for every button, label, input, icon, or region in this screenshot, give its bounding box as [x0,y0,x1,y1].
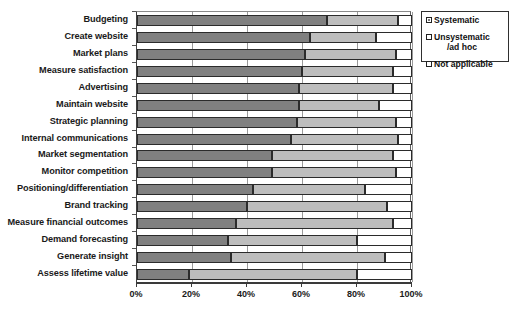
y-axis-label: Brand tracking [65,199,128,212]
bar-row [137,49,410,60]
legend-swatch-not-applicable [426,61,432,67]
y-axis-tick [132,214,136,215]
y-axis-tick [132,45,136,46]
legend-item-unsystematic: Unsystematic /ad hoc [426,32,506,52]
bar-segment [393,83,412,94]
bar-segment [387,201,412,212]
bar-row [137,150,410,161]
y-axis-label: Budgeting [83,13,128,26]
y-axis-tick [132,11,136,12]
stacked-bar-chart: BudgetingCreate websiteMarket plansMeasu… [0,0,511,313]
y-axis-label: Internal communications [22,132,128,145]
bar-row [137,184,410,195]
bar-row [137,117,410,128]
bar-segment [398,134,412,145]
bar-segment [376,32,412,43]
bar-segment [357,235,412,246]
bar-segment [253,184,366,195]
bar-segment [137,201,247,212]
x-axis-tick [356,282,357,287]
x-axis-tick-label: 60% [292,289,310,299]
x-axis-tick [136,282,137,287]
bar-row [137,100,410,111]
bar-segment [137,218,236,229]
bar-segment [231,252,385,263]
bar-segment [396,49,413,60]
y-axis-label: Create website [65,30,128,43]
y-axis-tick [132,28,136,29]
bar-segment [189,269,357,280]
bar-segment [393,66,412,77]
bar-segment [365,184,412,195]
bar-segment [137,66,302,77]
bar-segment [310,32,376,43]
bar-segment [396,117,413,128]
x-axis-tick-label: 80% [347,289,365,299]
bar-segment [137,269,189,280]
y-axis-label: Assess lifetime value [37,267,128,280]
bar-segment [385,252,413,263]
y-axis-label: Monitor competition [42,165,128,178]
bar-segment [137,235,228,246]
chart-legend: Systematic Unsystematic /ad hoc Not appl… [421,11,509,62]
bar-segment [137,49,305,60]
y-axis-label: Market plans [73,47,128,60]
bar-segment [357,269,412,280]
legend-label-unsystematic-line1: Unsystematic [434,32,490,42]
bar-segment [299,100,379,111]
y-axis-tick [132,163,136,164]
y-axis-label: Advertising [79,81,128,94]
y-axis-tick [132,96,136,97]
bar-segment [291,134,398,145]
y-axis-label: Measure financial outcomes [8,216,128,229]
legend-swatch-unsystematic [426,34,432,40]
bar-segment [299,83,393,94]
bar-segment [137,83,299,94]
y-axis-tick [132,113,136,114]
bar-segment [137,252,231,263]
bar-segment [305,49,396,60]
gridline-100 [412,12,413,282]
bar-segment [137,167,272,178]
x-axis-tick [246,282,247,287]
x-axis-tick-label: 40% [237,289,255,299]
legend-item-systematic: Systematic [426,15,506,25]
x-axis-tick [191,282,192,287]
y-axis-tick [132,265,136,266]
legend-label-not-applicable: Not applicable [434,59,493,69]
bar-segment [137,150,272,161]
y-axis-tick [132,62,136,63]
y-axis-label: Positioning/differentiation [17,182,128,195]
bar-row [137,235,410,246]
y-axis-tick [132,130,136,131]
bar-row [137,269,410,280]
bar-segment [137,117,297,128]
y-axis-label: Generate insight [57,250,128,263]
bar-row [137,15,410,26]
bar-segment [302,66,393,77]
y-axis-label: Measure satisfaction [39,64,128,77]
bar-segment [137,100,299,111]
bar-segment [327,15,399,26]
y-axis-label: Maintain website [56,98,128,111]
y-axis-label: Market segmentation [38,148,128,161]
x-axis-line [136,282,411,284]
bar-segment [297,117,396,128]
bar-segment [137,184,253,195]
bar-row [137,167,410,178]
x-axis-tick [411,282,412,287]
y-axis-category-labels: BudgetingCreate websiteMarket plansMeasu… [0,8,132,284]
bar-row [137,252,410,263]
bar-segment [137,134,291,145]
y-axis-label: Strategic planning [50,115,128,128]
bar-segment [137,15,327,26]
bar-row [137,134,410,145]
bar-segment [396,167,413,178]
legend-label-unsystematic-line2: /ad hoc [434,42,490,52]
legend-swatch-systematic [426,17,432,23]
bar-segment [272,150,393,161]
bar-segment [393,218,412,229]
bar-segment [236,218,393,229]
x-axis-tick-label: 20% [182,289,200,299]
y-axis-tick [132,197,136,198]
